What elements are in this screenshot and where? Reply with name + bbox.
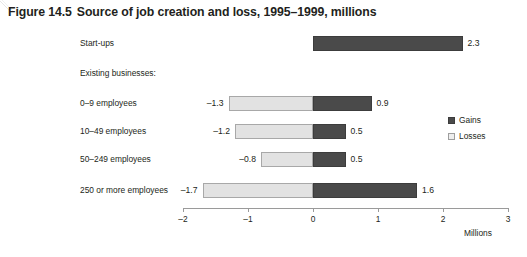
row-label: 10–49 employees [80,121,146,141]
bar-value-losses: –1.3 [165,93,224,113]
chart-row: 0–9 employees–1.30.9 [0,93,527,113]
legend-swatch-gains-icon [448,117,455,124]
axis-tick-label: 0 [298,214,328,224]
bar-segment-gains [313,36,463,51]
bar-segment-losses [229,96,314,111]
bar-value-gains: 0.5 [351,149,363,169]
bar-segment-losses [235,124,313,139]
bar-segment-gains [313,96,372,111]
axis-unit-label: Millions [464,228,492,238]
bar-value-gains: 0.9 [377,93,389,113]
axis-tick-label: 2 [428,214,458,224]
bar-value-gains: 1.6 [422,180,434,200]
row-label: Start-ups [80,33,114,53]
bar-value-losses: –1.7 [139,180,198,200]
bar-value-gains: 2.3 [468,33,480,53]
bar-segment-losses [203,183,314,198]
chart-row: 50–249 employees–0.80.5 [0,149,527,169]
bar-segment-losses [261,152,313,167]
row-label: Existing businesses: [80,63,156,83]
chart-row: Start-ups2.3 [0,33,527,53]
axis-tick-mark [378,208,379,212]
chart-group-header-row: Existing businesses: [0,63,527,83]
axis-tick-mark [313,208,314,212]
bar-value-losses: –1.2 [171,121,230,141]
axis-tick-mark [443,208,444,212]
axis-tick-label: 1 [363,214,393,224]
axis-tick-label: 3 [493,214,523,224]
axis-tick-mark [183,208,184,212]
bar-segment-gains [313,183,417,198]
axis-tick-mark [248,208,249,212]
axis-tick-label: –1 [233,214,263,224]
chart-row: 250 or more employees–1.71.6 [0,180,527,200]
row-label: 0–9 employees [80,93,137,113]
figure-container: Figure 14.5Source of job creation and lo… [0,0,527,257]
legend-item-gains: Gains [448,113,486,127]
legend-swatch-losses-icon [448,133,455,140]
axis-tick-label: –2 [168,214,198,224]
legend-label-gains: Gains [459,115,481,125]
bar-segment-gains [313,124,346,139]
legend-item-losses: Losses [448,129,486,143]
legend-label-losses: Losses [459,131,486,141]
bar-value-losses: –0.8 [197,149,256,169]
axis-tick-mark [508,208,509,212]
bar-segment-gains [313,152,346,167]
axis-line [183,208,508,209]
chart-legend: Gains Losses [448,113,486,145]
row-label: 50–249 employees [80,149,151,169]
bar-value-gains: 0.5 [351,121,363,141]
